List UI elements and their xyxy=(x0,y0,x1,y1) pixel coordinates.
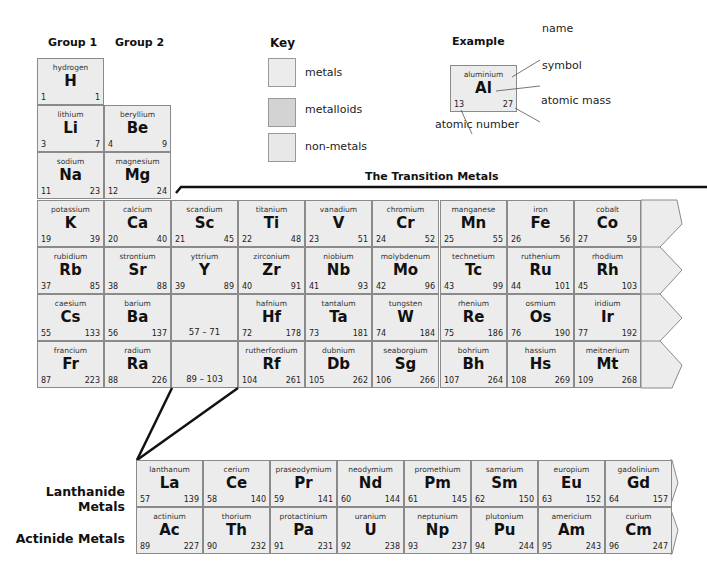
atomic-number: 96 xyxy=(609,542,619,551)
annotation-line-mass xyxy=(515,108,540,122)
element-cell: samariumSm62150 xyxy=(471,460,538,507)
element-cell: europiumEu63152 xyxy=(538,460,605,507)
atomic-mass: 157 xyxy=(653,495,668,504)
element-name: curium xyxy=(606,512,671,521)
element-symbol: Pm xyxy=(405,474,470,492)
element-name: actinium xyxy=(137,512,202,521)
atomic-number: 95 xyxy=(542,542,552,551)
element-name: europium xyxy=(539,465,604,474)
atomic-number: 63 xyxy=(542,495,552,504)
atomic-mass: 237 xyxy=(452,542,467,551)
atomic-mass: 244 xyxy=(519,542,534,551)
element-name: plutonium xyxy=(472,512,537,521)
atomic-mass: 152 xyxy=(586,495,601,504)
element-name: thorium xyxy=(204,512,269,521)
element-symbol: U xyxy=(338,521,403,539)
element-cell: uraniumU92238 xyxy=(337,507,404,554)
atomic-number: 60 xyxy=(341,495,351,504)
atomic-number: 57 xyxy=(140,495,150,504)
element-name: promethium xyxy=(405,465,470,474)
atomic-mass: 144 xyxy=(385,495,400,504)
atomic-number: 93 xyxy=(408,542,418,551)
atomic-number: 59 xyxy=(274,495,284,504)
element-symbol: Sm xyxy=(472,474,537,492)
element-name: neptunium xyxy=(405,512,470,521)
atomic-number: 92 xyxy=(341,542,351,551)
atomic-number: 62 xyxy=(475,495,485,504)
element-name: praseodymium xyxy=(271,465,336,474)
atomic-mass: 231 xyxy=(318,542,333,551)
element-cell: ceriumCe58140 xyxy=(203,460,270,507)
atomic-mass: 140 xyxy=(251,495,266,504)
element-name: gadolinium xyxy=(606,465,671,474)
lanthanide-label: Lanthanide Metals xyxy=(0,484,125,514)
annotation-line-number xyxy=(461,110,472,134)
element-symbol: Eu xyxy=(539,474,604,492)
element-cell: curiumCm96247 xyxy=(605,507,672,554)
atomic-mass: 150 xyxy=(519,495,534,504)
element-cell: protactiniumPa91231 xyxy=(270,507,337,554)
element-name: americium xyxy=(539,512,604,521)
atomic-mass: 238 xyxy=(385,542,400,551)
element-cell: praseodymiumPr59141 xyxy=(270,460,337,507)
atomic-mass: 247 xyxy=(653,542,668,551)
atomic-number: 94 xyxy=(475,542,485,551)
atomic-number: 89 xyxy=(140,542,150,551)
element-name: uranium xyxy=(338,512,403,521)
atomic-number: 90 xyxy=(207,542,217,551)
atomic-mass: 232 xyxy=(251,542,266,551)
atomic-number: 58 xyxy=(207,495,217,504)
element-name: lanthanum xyxy=(137,465,202,474)
element-symbol: Np xyxy=(405,521,470,539)
annotation-line-name xyxy=(512,60,540,77)
element-cell: actiniumAc89227 xyxy=(136,507,203,554)
element-name: samarium xyxy=(472,465,537,474)
element-cell: plutoniumPu94244 xyxy=(471,507,538,554)
atomic-number: 61 xyxy=(408,495,418,504)
atomic-mass: 227 xyxy=(184,542,199,551)
element-symbol: Gd xyxy=(606,474,671,492)
element-cell: neodymiumNd60144 xyxy=(337,460,404,507)
element-symbol: Th xyxy=(204,521,269,539)
element-symbol: Am xyxy=(539,521,604,539)
transition-metals-bracket xyxy=(176,187,707,193)
element-cell: lanthanumLa57139 xyxy=(136,460,203,507)
f-block-connector-right xyxy=(137,388,238,460)
element-symbol: Pu xyxy=(472,521,537,539)
element-symbol: Pr xyxy=(271,474,336,492)
actinide-label: Actinide Metals xyxy=(0,531,125,546)
f-block-connector-left xyxy=(137,388,172,460)
element-cell: neptuniumNp93237 xyxy=(404,507,471,554)
element-name: protactinium xyxy=(271,512,336,521)
atomic-mass: 141 xyxy=(318,495,333,504)
atomic-number: 64 xyxy=(609,495,619,504)
element-cell: gadoliniumGd64157 xyxy=(605,460,672,507)
annotation-line-symbol xyxy=(496,86,540,91)
atomic-number: 91 xyxy=(274,542,284,551)
element-name: cerium xyxy=(204,465,269,474)
element-cell: thoriumTh90232 xyxy=(203,507,270,554)
element-symbol: Nd xyxy=(338,474,403,492)
atomic-mass: 243 xyxy=(586,542,601,551)
element-symbol: La xyxy=(137,474,202,492)
element-cell: americiumAm95243 xyxy=(538,507,605,554)
element-symbol: Ac xyxy=(137,521,202,539)
element-symbol: Ce xyxy=(204,474,269,492)
atomic-mass: 145 xyxy=(452,495,467,504)
atomic-mass: 139 xyxy=(184,495,199,504)
element-symbol: Pa xyxy=(271,521,336,539)
element-symbol: Cm xyxy=(606,521,671,539)
element-cell: promethiumPm61145 xyxy=(404,460,471,507)
element-name: neodymium xyxy=(338,465,403,474)
